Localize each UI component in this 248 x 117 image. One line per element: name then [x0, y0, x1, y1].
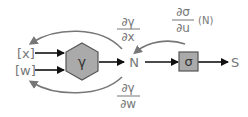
sigma-label: σ	[184, 54, 192, 69]
dsigma-du-suffix: (N)	[198, 15, 213, 26]
gamma-label: γ	[78, 54, 86, 70]
dgamma-dx-numerator: ∂γ	[121, 15, 134, 29]
backprop-arrow-to-w	[33, 77, 122, 93]
neural-computation-diagram: γ [x] [w] N σ S ∂γ ∂x ∂γ ∂w ∂σ ∂u (N)	[0, 0, 248, 117]
dgamma-dw-denominator: ∂w	[120, 97, 136, 111]
input-w-label: [w]	[15, 63, 36, 78]
dsigma-du-denominator: ∂u	[176, 21, 190, 35]
s-output-label: S	[231, 55, 239, 70]
dgamma-dw-numerator: ∂γ	[121, 81, 134, 95]
dsigma-du-numerator: ∂σ	[176, 5, 190, 19]
input-x-label: [x]	[17, 46, 35, 61]
dgamma-dx-denominator: ∂x	[121, 30, 134, 44]
backprop-arrow-to-n	[137, 41, 185, 51]
n-node-label: N	[129, 55, 139, 70]
